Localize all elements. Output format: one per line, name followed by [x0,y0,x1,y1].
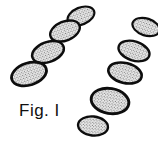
figure-drawing [0,0,158,144]
disc-right-1-body [130,15,158,40]
disc-right-2 [116,37,152,65]
disc-right-4 [89,85,131,116]
disc-right-3 [106,59,144,87]
disc-right-4-body [89,85,131,116]
disc-right-3-body [106,59,144,87]
disc-bottom-body [77,115,109,137]
figure-canvas: Fig. I [0,0,158,144]
figure-caption: Fig. I [19,101,60,121]
disc-right-1 [130,15,158,40]
disc-right-2-body [116,37,152,65]
disc-bottom [77,115,109,137]
